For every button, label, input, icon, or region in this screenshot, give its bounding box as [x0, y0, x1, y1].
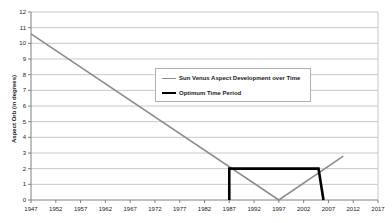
x-tick-label: 1987 [217, 206, 241, 212]
legend-label: Optimum Time Period [179, 90, 241, 96]
x-tick-label: 2007 [316, 206, 340, 212]
x-tick-label: 1947 [19, 206, 43, 212]
legend-label: Sun Venus Aspect Development over Time [179, 75, 300, 81]
legend-entry-sun-venus-aspect: Sun Venus Aspect Development over Time [162, 73, 300, 83]
chart-plot-area [0, 0, 392, 223]
x-tick-label: 1967 [118, 206, 142, 212]
x-tick-label: 2002 [292, 206, 316, 212]
y-tick-label: 9 [10, 56, 26, 62]
x-tick-label: 1962 [93, 206, 117, 212]
x-tick-label: 1977 [168, 206, 192, 212]
chart-legend: Sun Venus Aspect Development over Time O… [155, 68, 311, 102]
x-tick-label: 1972 [143, 206, 167, 212]
x-tick-label: 2012 [341, 206, 365, 212]
chart-container: 1211109876543210 19471952195719621967197… [0, 0, 392, 223]
y-tick-label: 0 [10, 197, 26, 203]
x-tick-label: 1992 [242, 206, 266, 212]
x-tick-label: 1997 [267, 206, 291, 212]
y-tick-label: 2 [10, 166, 26, 172]
y-tick-label: 11 [10, 25, 26, 31]
legend-swatch-icon-grey [162, 78, 176, 79]
y-tick-label: 10 [10, 40, 26, 46]
y-tick-label: 1 [10, 181, 26, 187]
x-tick-label: 1952 [44, 206, 68, 212]
x-tick-label: 2017 [366, 206, 390, 212]
legend-swatch-icon-black [162, 92, 176, 94]
x-tick-label: 1982 [193, 206, 217, 212]
y-tick-label: 12 [10, 9, 26, 15]
legend-entry-optimum-time-period: Optimum Time Period [162, 88, 241, 98]
x-tick-label: 1957 [69, 206, 93, 212]
y-axis-title: Aspect Orb (in degrees) [11, 64, 17, 154]
